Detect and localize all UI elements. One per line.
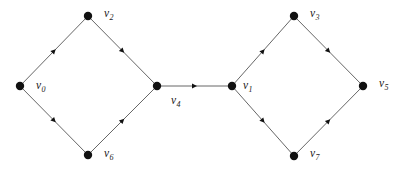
vertex-label-subscript: 5 bbox=[384, 83, 388, 92]
vertex-label-subscript: 6 bbox=[109, 153, 113, 162]
vertex-label-subscript: 3 bbox=[315, 13, 319, 22]
vertex-label-v4: v4 bbox=[171, 95, 180, 107]
graph-vertex-v5 bbox=[359, 82, 367, 90]
vertex-label-v0: v0 bbox=[36, 80, 45, 92]
graph-vertex-v2 bbox=[84, 12, 92, 20]
graph-vertex-v6 bbox=[84, 151, 92, 159]
graph-vertex-v4 bbox=[153, 82, 161, 90]
vertex-label-subscript: 2 bbox=[109, 13, 113, 22]
vertex-label-v5: v5 bbox=[379, 78, 388, 90]
graph-diagram-canvas: v0v2v6v4v1v3v7v5 bbox=[0, 0, 406, 169]
graph-svg bbox=[0, 0, 406, 169]
graph-vertex-v1 bbox=[228, 82, 236, 90]
graph-vertex-v0 bbox=[16, 82, 24, 90]
vertex-label-subscript: 7 bbox=[315, 153, 319, 162]
vertex-label-v7: v7 bbox=[310, 148, 319, 160]
vertex-label-subscript: 0 bbox=[41, 85, 45, 94]
edge-arrowhead bbox=[192, 83, 197, 88]
vertex-label-v1: v1 bbox=[243, 80, 252, 92]
graph-vertex-v3 bbox=[290, 12, 298, 20]
graph-vertex-v7 bbox=[290, 152, 298, 160]
vertex-label-v2: v2 bbox=[104, 8, 113, 20]
edges-layer bbox=[22, 18, 361, 154]
vertex-label-subscript: 1 bbox=[248, 85, 252, 94]
vertex-label-v3: v3 bbox=[310, 8, 319, 20]
vertex-label-subscript: 4 bbox=[176, 100, 180, 109]
vertex-label-v6: v6 bbox=[104, 148, 113, 160]
